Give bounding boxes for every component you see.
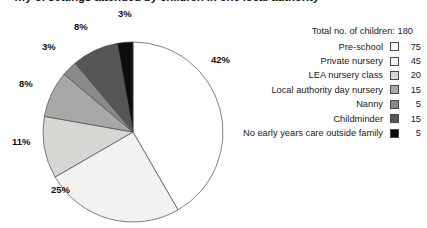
legend-item: Pre-school75 [183, 40, 421, 54]
legend-color-swatch [390, 42, 399, 51]
legend-color-swatch [390, 85, 399, 94]
pie-slice-percent-label: 11% [12, 136, 31, 147]
legend-item-value: 5 [399, 128, 421, 138]
legend: Total no. of children: 180 Pre-school75P… [183, 26, 421, 140]
pie-slice-percent-label: 3% [42, 41, 56, 52]
legend-item-label: Pre-school [339, 42, 383, 52]
legend-item-value: 45 [399, 56, 421, 66]
legend-color-swatch [390, 114, 399, 123]
legend-color-swatch [390, 57, 399, 66]
legend-item-label: Nanny [356, 99, 383, 109]
legend-color-swatch [390, 100, 399, 109]
pie-slice-percent-label: 8% [19, 78, 33, 89]
legend-item: Childminder15 [183, 111, 421, 125]
legend-item-label: Private nursery [320, 56, 383, 66]
pie-chart-figure: …y of settings attended by children in o… [0, 0, 427, 228]
legend-item: Nanny5 [183, 97, 421, 111]
legend-item-value: 5 [399, 99, 421, 109]
legend-item-value: 20 [399, 70, 421, 80]
pie-slice-percent-label: 25% [51, 184, 70, 195]
legend-item: Private nursery45 [183, 54, 421, 68]
legend-rows: Pre-school75Private nursery45LEA nursery… [183, 40, 421, 141]
legend-item-value: 15 [399, 114, 421, 124]
legend-item-value: 15 [399, 85, 421, 95]
legend-item-label: No early years care outside family [243, 128, 383, 138]
legend-item: Local authority day nursery15 [183, 83, 421, 97]
legend-item-value: 75 [399, 42, 421, 52]
legend-color-swatch [390, 129, 399, 138]
legend-item: LEA nursery class20 [183, 68, 421, 82]
legend-color-swatch [390, 71, 399, 80]
legend-total-label: Total no. of children: 180 [183, 26, 421, 36]
pie-slice-percent-label: 8% [74, 21, 88, 32]
legend-item-label: Childminder [333, 114, 383, 124]
legend-item-label: Local authority day nursery [271, 85, 383, 95]
pie-slice-percent-label: 3% [118, 8, 132, 19]
legend-item-label: LEA nursery class [309, 70, 383, 80]
legend-item: No early years care outside family5 [183, 126, 421, 140]
